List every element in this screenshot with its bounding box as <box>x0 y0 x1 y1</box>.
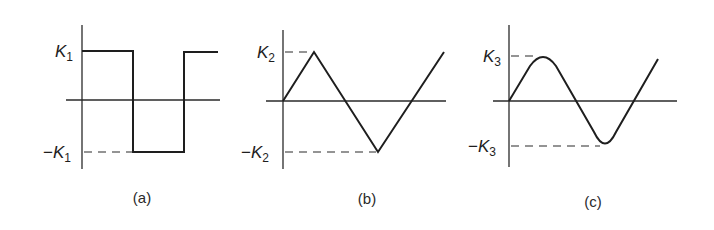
pos-level-label: K3 <box>483 47 501 69</box>
pos-level-label: K2 <box>257 43 275 65</box>
pos-level-label: K1 <box>55 42 73 64</box>
neg-level-label: −K3 <box>468 137 496 159</box>
caption-a: (a) <box>133 189 151 206</box>
caption-b: (b) <box>358 190 376 207</box>
panel-b: K2 −K2 (b) <box>241 30 446 207</box>
panel-c: K3 −K3 (c) <box>468 25 677 210</box>
sine-like-wave <box>509 57 658 144</box>
square-wave <box>82 51 218 152</box>
panel-a: K1 −K1 (a) <box>43 25 220 206</box>
neg-level-label: −K2 <box>241 143 269 165</box>
neg-level-label: −K1 <box>43 143 71 165</box>
waveform-diagram: K1 −K1 (a) K2 −K2 (b) K3 −K3 (c) <box>0 0 714 230</box>
caption-c: (c) <box>584 193 602 210</box>
triangle-wave <box>283 52 444 152</box>
